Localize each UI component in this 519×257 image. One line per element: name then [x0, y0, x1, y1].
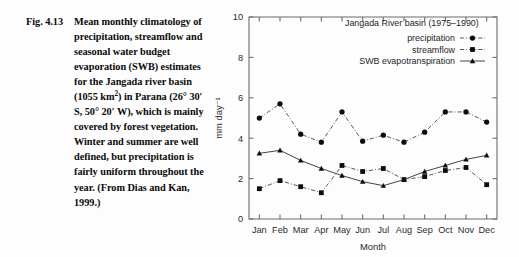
- data-point-square: [360, 169, 365, 174]
- y-tick-label: 0: [238, 214, 243, 224]
- x-tick-label-may: May: [333, 225, 351, 235]
- plot-frame: [249, 17, 497, 219]
- data-point-square: [340, 163, 345, 168]
- legend-title: Jangada River basin (1975–1990): [345, 18, 479, 28]
- y-tick-label: 4: [238, 134, 243, 144]
- data-point-square: [422, 174, 427, 179]
- figure-number: Fig. 4.13: [26, 14, 74, 29]
- figure-caption: Fig. 4.13 Mean monthly climatology of pr…: [26, 14, 212, 210]
- legend-label-precipitation: precipitation: [407, 33, 455, 43]
- data-point-circle: [422, 130, 427, 135]
- x-tick-label-apr: Apr: [314, 225, 328, 235]
- x-axis-ticks: JanFebMarAprMayJunJulAugSepOctNovDec: [252, 17, 495, 235]
- x-tick-label-sep: Sep: [416, 225, 432, 235]
- data-point-square: [443, 168, 448, 173]
- x-tick-label-dec: Dec: [478, 225, 495, 235]
- x-tick-label-jun: Jun: [355, 225, 370, 235]
- series-streamflow: [257, 163, 489, 195]
- series-layer: [257, 101, 490, 195]
- climatology-line-chart: 0246810 JanFebMarAprMayJunJulAugSepOctNo…: [210, 0, 519, 257]
- data-point-square: [381, 166, 386, 171]
- series-precipitation: [257, 101, 490, 145]
- x-tick-label-aug: Aug: [396, 225, 412, 235]
- series-swb-evapotranspiration: [257, 148, 490, 188]
- x-tick-label-jan: Jan: [252, 225, 267, 235]
- data-point-triangle: [277, 148, 283, 153]
- data-point-triangle: [484, 153, 490, 158]
- x-tick-label-jul: Jul: [377, 225, 389, 235]
- data-point-square: [319, 190, 324, 195]
- legend-label-swb-evapotranspiration: SWB evapotranspiration: [359, 56, 455, 66]
- y-tick-label: 8: [238, 53, 243, 63]
- y-tick-label: 6: [238, 93, 243, 103]
- chart-legend: Jangada River basin (1975–1990)precipita…: [345, 18, 485, 66]
- data-point-circle: [298, 132, 303, 137]
- chart-svg: 0246810 JanFebMarAprMayJunJulAugSepOctNo…: [210, 0, 519, 257]
- data-point-circle: [381, 133, 386, 138]
- data-point-circle: [360, 139, 365, 144]
- y-axis-ticks: 0246810: [233, 12, 497, 224]
- y-axis-title: mm day⁻¹: [213, 97, 224, 138]
- data-point-circle: [319, 140, 324, 145]
- data-point-triangle: [298, 158, 304, 163]
- data-point-circle: [443, 109, 448, 114]
- data-point-circle: [277, 101, 282, 106]
- data-point-circle: [257, 115, 262, 120]
- data-point-square: [464, 165, 469, 170]
- data-point-square: [278, 178, 283, 183]
- x-tick-label-nov: Nov: [458, 225, 475, 235]
- data-point-circle: [463, 109, 468, 114]
- x-axis-title: Month: [360, 241, 386, 252]
- data-point-circle: [401, 140, 406, 145]
- data-point-square: [484, 182, 489, 187]
- y-tick-label: 2: [238, 174, 243, 184]
- x-tick-label-oct: Oct: [438, 225, 453, 235]
- data-point-circle: [484, 119, 489, 124]
- data-point-circle: [339, 109, 344, 114]
- figure-page: Fig. 4.13 Mean monthly climatology of pr…: [0, 0, 519, 257]
- data-point-square: [470, 47, 475, 52]
- x-tick-label-mar: Mar: [293, 225, 309, 235]
- data-point-circle: [470, 35, 475, 40]
- legend-label-streamflow: streamflow: [412, 45, 455, 55]
- y-tick-label: 10: [233, 12, 243, 22]
- data-point-square: [298, 184, 303, 189]
- x-tick-label-feb: Feb: [272, 225, 288, 235]
- figure-caption-text: Mean monthly climatology of precipitatio…: [74, 14, 212, 210]
- data-point-square: [257, 186, 262, 191]
